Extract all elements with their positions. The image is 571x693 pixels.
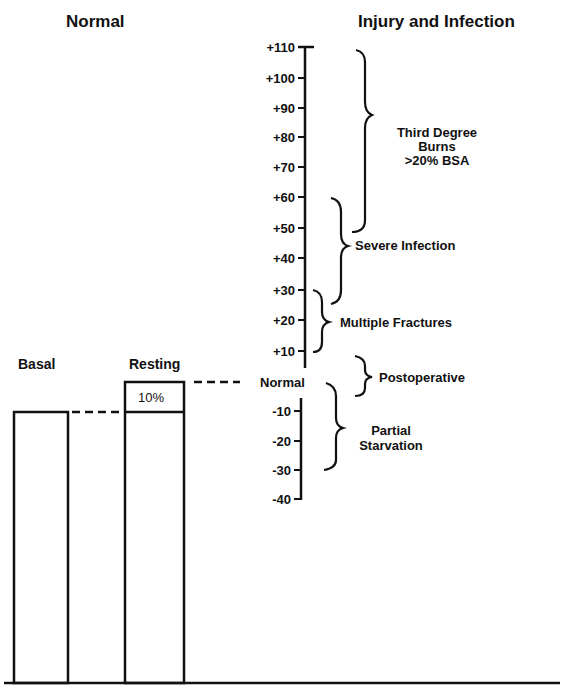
brace-burns [352, 50, 372, 232]
tick-label: -30 [241, 464, 291, 477]
tick-label: +100 [245, 72, 295, 85]
resting-increment-label: 10% [138, 391, 164, 404]
postoperative-label: Postoperative [379, 371, 465, 384]
brace-starvation [324, 383, 343, 470]
basal-bar [14, 412, 68, 683]
brace-infection [331, 198, 348, 304]
basal-label: Basal [18, 357, 55, 371]
tick-label: -20 [241, 435, 291, 448]
brace-postoperative [355, 356, 372, 396]
starvation-label-line1: Partial [346, 423, 436, 438]
burns-label-line1: Third Degree [382, 126, 492, 140]
normal-axis-label: Normal [260, 376, 305, 389]
tick-label: +110 [245, 41, 295, 54]
tick-label: -40 [241, 493, 291, 506]
resting-bar [125, 382, 184, 683]
tick-label: +40 [245, 252, 295, 265]
tick-label: +60 [245, 191, 295, 204]
tick-label: +10 [245, 345, 295, 358]
burns-label: Third Degree Burns >20% BSA [382, 126, 492, 168]
range-braces [313, 50, 372, 470]
tick-label: +90 [245, 102, 295, 115]
tick-label: -10 [241, 405, 291, 418]
severe-infection-label: Severe Infection [355, 239, 455, 252]
injury-title: Injury and Infection [358, 13, 515, 30]
tick-label: +70 [245, 161, 295, 174]
brace-fractures [313, 290, 329, 352]
partial-starvation-label: Partial Starvation [346, 423, 436, 453]
tick-label: +30 [245, 284, 295, 297]
resting-label: Resting [129, 357, 180, 371]
tick-label: +80 [245, 131, 295, 144]
tick-label: +50 [245, 222, 295, 235]
normal-title: Normal [66, 13, 125, 30]
tick-label: +20 [245, 314, 295, 327]
burns-label-line2: Burns [382, 140, 492, 154]
multiple-fractures-label: Multiple Fractures [340, 316, 452, 329]
starvation-label-line2: Starvation [346, 438, 436, 453]
burns-label-line3: >20% BSA [382, 154, 492, 168]
